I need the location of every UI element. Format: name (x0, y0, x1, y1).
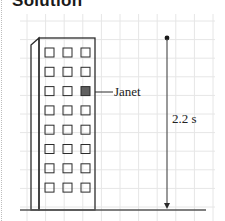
janet-label: Janet (114, 84, 141, 99)
janet-window (81, 87, 90, 96)
time-label: 2.2 s (172, 111, 197, 126)
building (31, 38, 95, 210)
building-window (45, 67, 54, 76)
falling-object-diagram: Janet 2.2 s (0, 0, 225, 221)
building-window (45, 48, 54, 57)
building-front-wall (39, 38, 95, 210)
building-side-wall (31, 38, 39, 210)
fall-arrow-head (164, 203, 170, 209)
building-window (45, 183, 54, 192)
building-window (45, 87, 54, 96)
building-window (45, 145, 54, 154)
building-window (45, 164, 54, 173)
